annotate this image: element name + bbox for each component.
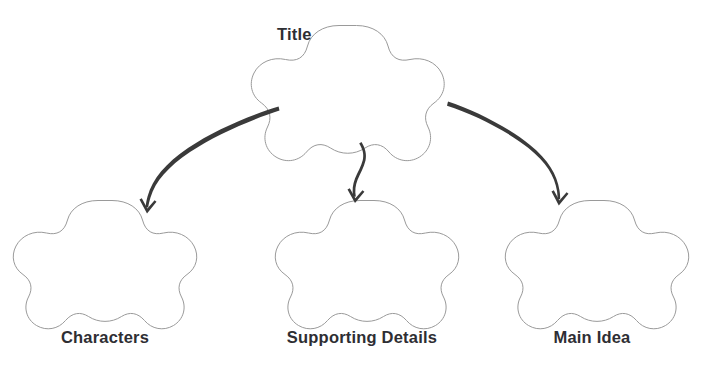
arrow-shaft-left: [146, 107, 280, 208]
blob-shape-characters: [13, 201, 196, 329]
blob-shape-title: [251, 26, 444, 161]
node-supporting-details[interactable]: Supporting Details: [275, 201, 458, 347]
node-main-idea[interactable]: Main Idea: [505, 201, 688, 347]
node-label-supporting-details: Supporting Details: [287, 328, 437, 346]
node-characters[interactable]: Characters: [13, 201, 196, 347]
node-label-characters: Characters: [61, 328, 149, 346]
node-title[interactable]: Title: [251, 25, 444, 161]
arrow-title-to-characters: [140, 107, 280, 214]
node-label-main-idea: Main Idea: [554, 328, 632, 346]
blob-shape-main-idea: [505, 201, 688, 329]
graphic-organizer-canvas: Title Characters Supporting Details Main…: [0, 0, 701, 366]
blob-shape-supporting-details: [275, 201, 458, 329]
arrow-title-to-main-idea: [447, 102, 569, 206]
arrow-shaft-right: [447, 102, 560, 200]
node-label-title: Title: [277, 25, 312, 43]
